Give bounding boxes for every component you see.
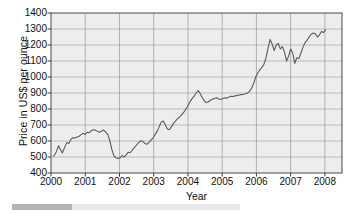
gold-price-chart-figure: Price in US$ per ounce 14001300120011001…: [0, 0, 352, 214]
x-axis-tick-labels: 200020012002200320042005200620072008: [0, 0, 352, 214]
x-axis-label: Year: [51, 190, 342, 202]
horizontal-scrollbar-thumb[interactable]: [12, 204, 72, 210]
x-tick-label: 2008: [305, 176, 345, 187]
horizontal-scrollbar-track[interactable]: [12, 204, 240, 210]
